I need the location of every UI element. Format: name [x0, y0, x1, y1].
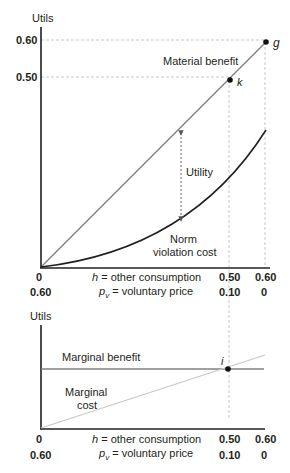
- point-k: [227, 77, 233, 83]
- label-g: g: [273, 37, 280, 49]
- bottom-x-axis-label-2: pv = voluntary price: [99, 448, 193, 462]
- x-axis-label-2: pv = voluntary price: [99, 286, 193, 300]
- material-benefit-label: Material benefit: [163, 56, 238, 67]
- point-g: [263, 39, 269, 45]
- top-y-axis-label: Utils: [32, 13, 53, 24]
- x-tick-060: 0.60: [255, 272, 276, 283]
- norm-label-1: Norm: [170, 234, 197, 245]
- y-tick-050: 0.50: [16, 72, 37, 83]
- label-i: i: [221, 356, 223, 367]
- material-benefit-line: [41, 42, 266, 267]
- bottom-x-tick-0: 0: [36, 434, 42, 445]
- chart-canvas: [0, 0, 290, 473]
- label-k: k: [237, 77, 243, 88]
- bottom-x-tick-050: 0.50: [219, 434, 240, 445]
- p-tick-0: 0: [261, 287, 267, 298]
- marginal-benefit-label: Marginal benefit: [62, 352, 140, 363]
- utility-label: Utility: [186, 167, 213, 178]
- p-tick-010: 0.10: [219, 287, 240, 298]
- marginal-cost-label-2: cost: [77, 400, 97, 411]
- x-tick-0: 0: [36, 272, 42, 283]
- bottom-chart: [40, 325, 265, 429]
- bottom-x-axis-label: h = other consumption: [92, 434, 201, 445]
- p-tick-060: 0.60: [30, 287, 51, 298]
- bottom-x-tick-060: 0.60: [255, 434, 276, 445]
- x-axis-label: h = other consumption: [92, 272, 201, 283]
- bottom-p-tick-0: 0: [261, 450, 267, 461]
- marginal-cost-label-1: Marginal: [65, 387, 107, 398]
- bottom-p-tick-010: 0.10: [219, 450, 240, 461]
- x-tick-050: 0.50: [219, 272, 240, 283]
- bottom-p-tick-060: 0.60: [30, 450, 51, 461]
- bottom-y-axis-label: Utils: [30, 311, 51, 322]
- norm-label-2: violation cost: [153, 247, 217, 258]
- y-tick-060: 0.60: [16, 35, 37, 46]
- point-i: [225, 366, 231, 372]
